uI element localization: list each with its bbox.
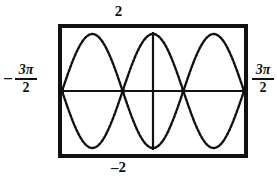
window-label-xmax: 3π 2 xyxy=(252,63,274,96)
intersection-dot xyxy=(181,89,186,94)
intersection-dot xyxy=(242,89,247,94)
window-label-xmax-numerator: 3π xyxy=(254,63,273,78)
window-label-ymin-text: –2 xyxy=(111,160,126,175)
window-label-xmin-numerator: 3π xyxy=(17,63,36,78)
window-label-xmax-fraction: 3π 2 xyxy=(252,63,274,96)
window-label-ymax: 2 xyxy=(0,4,277,19)
window-label-xmin-denominator: 2 xyxy=(23,80,30,95)
window-label-xmin-sign: – xyxy=(4,70,12,86)
window-label-xmin-fraction: 3π 2 xyxy=(15,63,37,96)
window-label-ymin: –2 xyxy=(0,160,277,175)
window-label-xmin: – 3π 2 xyxy=(4,63,37,96)
graph-figure: 2 –2 – 3π 2 3π 2 xyxy=(0,0,277,182)
plot-canvas xyxy=(58,24,248,158)
window-label-ymax-text: 2 xyxy=(115,4,123,19)
intersection-dot xyxy=(120,89,125,94)
intersection-dot xyxy=(60,89,65,94)
window-label-xmax-denominator: 2 xyxy=(260,80,267,95)
axes-group xyxy=(62,32,244,150)
